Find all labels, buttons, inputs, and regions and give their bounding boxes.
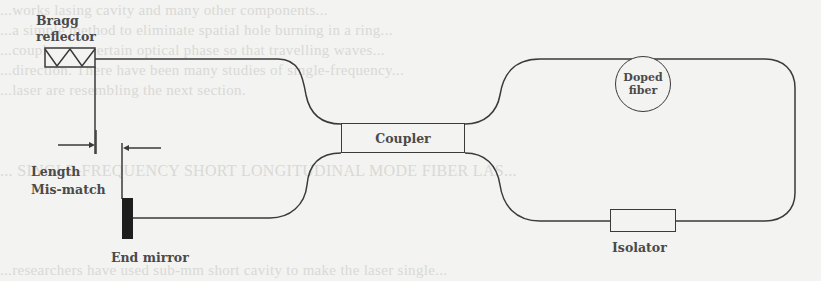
fiber-bottom-left: [133, 153, 341, 218]
fiber-top-left: [95, 59, 341, 124]
fiber-bottom-right: [465, 153, 610, 221]
coupler-box: Coupler: [341, 123, 465, 153]
fiber-laser-diagram: ...works lasing cavity and many other co…: [0, 0, 821, 281]
doped-fiber-label-line1: Doped: [623, 71, 662, 84]
mismatch-arrowhead-left: [123, 145, 129, 151]
end-mirror-label: End mirror: [111, 250, 189, 265]
mismatch-arrowhead-right: [89, 142, 95, 148]
doped-fiber-circle: Doped fiber: [615, 56, 671, 112]
length-mismatch-label-line2: Mis-match: [31, 182, 106, 197]
coupler-label: Coupler: [375, 131, 430, 146]
bragg-reflector-icon: [45, 48, 95, 67]
bragg-label-line1: Bragg: [36, 13, 79, 28]
bragg-label-line2: reflector: [36, 29, 96, 44]
doped-fiber-label-line2: fiber: [629, 84, 657, 97]
isolator-box: [610, 209, 676, 232]
isolator-label: Isolator: [612, 240, 667, 255]
length-mismatch-label-line1: Length: [31, 164, 80, 179]
end-mirror-icon: [122, 198, 133, 239]
